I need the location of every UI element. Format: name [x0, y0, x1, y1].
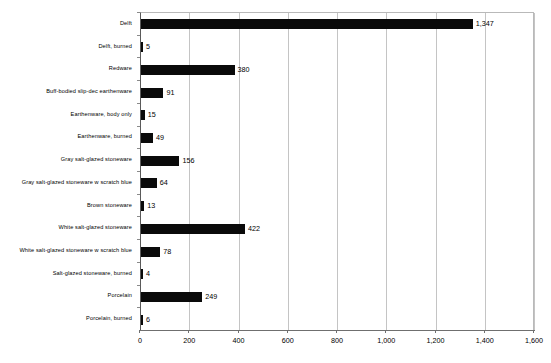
- x-tick-label: 0: [120, 336, 160, 345]
- bar-value-label: 91: [166, 88, 174, 98]
- x-tick: [238, 330, 239, 333]
- x-tick-label: 1,400: [465, 336, 505, 345]
- category-axis-labels: DelftDelft, burnedRedwareBuff-bodied sli…: [0, 12, 136, 330]
- bar-value-label: 15: [148, 110, 156, 120]
- category-tick: [137, 216, 140, 217]
- category-tick: [137, 307, 140, 308]
- category-tick: [137, 171, 140, 172]
- category-label: Delft: [0, 20, 132, 27]
- bar-chart: DelftDelft, burnedRedwareBuff-bodied sli…: [0, 0, 551, 363]
- category-label: Porcelain: [0, 292, 132, 299]
- bar: [141, 247, 160, 257]
- category-label: White salt-glazed stoneware w scratch bl…: [0, 247, 132, 254]
- gridline: [337, 13, 338, 330]
- x-tick: [336, 330, 337, 333]
- x-tick: [188, 330, 189, 333]
- bar: [141, 224, 245, 234]
- gridline: [288, 13, 289, 330]
- x-tick: [385, 330, 386, 333]
- category-tick: [137, 80, 140, 81]
- bar: [141, 19, 473, 29]
- x-tick: [435, 330, 436, 333]
- category-tick: [137, 103, 140, 104]
- bar: [141, 292, 202, 302]
- category-tick: [137, 239, 140, 240]
- category-tick: [137, 35, 140, 36]
- category-label: Redware: [0, 65, 132, 72]
- bar: [141, 269, 143, 279]
- category-label: Gray salt-glazed stoneware w scratch blu…: [0, 179, 132, 186]
- bar: [141, 178, 157, 188]
- bar-value-label: 6: [146, 315, 150, 325]
- bar: [141, 156, 179, 166]
- x-tick-label: 1,200: [416, 336, 456, 345]
- plot-area: 1,347538091154915664134227842496: [140, 12, 534, 330]
- x-tick: [287, 330, 288, 333]
- category-tick: [137, 12, 140, 13]
- gridline: [239, 13, 240, 330]
- category-label: Gray salt-glazed stoneware: [0, 156, 132, 163]
- x-tick-label: 600: [268, 336, 308, 345]
- category-tick: [137, 194, 140, 195]
- bar: [141, 65, 235, 75]
- bar: [141, 88, 163, 98]
- bar-value-label: 4: [146, 269, 150, 279]
- bar-value-label: 5: [146, 42, 150, 52]
- gridline: [386, 13, 387, 330]
- category-label: Earthenware, burned: [0, 133, 132, 140]
- bar-value-label: 422: [248, 224, 260, 234]
- bar-value-label: 156: [182, 156, 194, 166]
- x-axis-line: [140, 330, 535, 331]
- bar-value-label: 49: [156, 133, 164, 143]
- category-tick: [137, 262, 140, 263]
- x-tick-label: 200: [169, 336, 209, 345]
- x-tick-label: 1,600: [514, 336, 551, 345]
- bar: [141, 133, 153, 143]
- x-tick: [533, 330, 534, 333]
- bar: [141, 315, 143, 325]
- category-label: Salt-glazed stoneware, burned: [0, 270, 132, 277]
- category-label: Brown stoneware: [0, 202, 132, 209]
- bar: [141, 110, 145, 120]
- category-label: Delft, burned: [0, 43, 132, 50]
- bar-value-label: 249: [205, 292, 217, 302]
- x-tick: [139, 330, 140, 333]
- bar: [141, 201, 144, 211]
- x-tick-label: 1,000: [366, 336, 406, 345]
- bar-value-label: 380: [238, 65, 250, 75]
- bar: [141, 42, 143, 52]
- bar-value-label: 64: [160, 178, 168, 188]
- bar-value-label: 78: [163, 247, 171, 257]
- gridline: [485, 13, 486, 330]
- gridline: [436, 13, 437, 330]
- x-tick-label: 400: [219, 336, 259, 345]
- category-label: Porcelain, burned: [0, 315, 132, 322]
- x-tick-label: 800: [317, 336, 357, 345]
- x-tick: [484, 330, 485, 333]
- category-tick: [137, 57, 140, 58]
- bar-value-label: 13: [147, 201, 155, 211]
- bar-value-label: 1,347: [476, 19, 494, 29]
- category-label: Buff-bodied slip-dec earthenware: [0, 88, 132, 95]
- category-tick: [137, 285, 140, 286]
- gridline: [534, 13, 535, 330]
- category-tick: [137, 126, 140, 127]
- category-tick: [137, 148, 140, 149]
- category-label: White salt-glazed stoneware: [0, 224, 132, 231]
- category-label: Earthenware, body only: [0, 111, 132, 118]
- gridline: [189, 13, 190, 330]
